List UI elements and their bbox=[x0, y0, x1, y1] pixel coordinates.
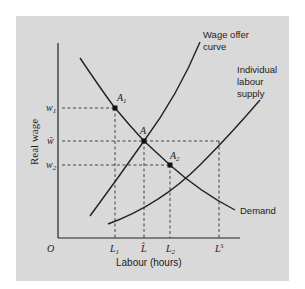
axes bbox=[58, 43, 240, 238]
x-tick-Lhat: L̂ bbox=[140, 242, 147, 254]
individual-labour-supply-curve bbox=[108, 100, 260, 224]
demand-label: Demand bbox=[240, 205, 276, 216]
y-tick-what: ŵ bbox=[47, 135, 54, 146]
supply-label-3: supply bbox=[237, 88, 265, 99]
supply-label-2: labour bbox=[237, 76, 263, 87]
label-A2: A2 bbox=[169, 150, 180, 163]
y-tick-w1: w1 bbox=[46, 102, 56, 115]
x-tick-Ls: LS bbox=[214, 243, 224, 254]
y-tick-w2: w2 bbox=[46, 159, 57, 172]
label-A1: A1 bbox=[116, 92, 127, 105]
wage-offer-label-1: Wage offer bbox=[203, 29, 249, 40]
wage-offer-label-2: curve bbox=[203, 41, 226, 52]
point-A2 bbox=[168, 163, 173, 168]
supply-label-1: Individual bbox=[237, 64, 277, 75]
labour-market-diagram: A1 A A2 w1 ŵ w2 O L1 L̂ L2 LS Labour (ho… bbox=[0, 0, 305, 289]
origin-label: O bbox=[47, 243, 54, 254]
curves bbox=[80, 42, 260, 224]
x-tick-L2: L2 bbox=[165, 243, 176, 256]
label-A: A bbox=[139, 125, 147, 136]
demand-curve bbox=[80, 58, 235, 210]
x-axis-title: Labour (hours) bbox=[116, 257, 182, 268]
y-axis-title: Real wage bbox=[28, 119, 40, 165]
point-A1 bbox=[113, 106, 118, 111]
point-A bbox=[142, 139, 147, 144]
x-tick-L1: L1 bbox=[109, 243, 119, 256]
